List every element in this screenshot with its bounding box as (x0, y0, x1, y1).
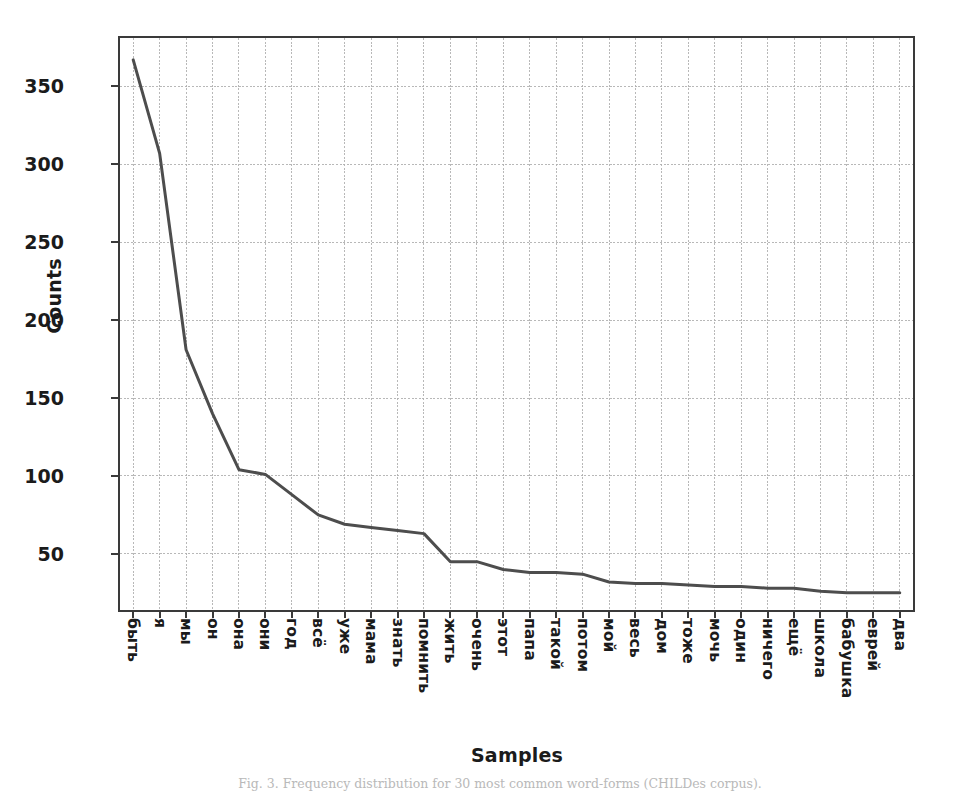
x-axis-tick-label: мы (177, 618, 195, 645)
x-axis-tick-label: быть (124, 618, 142, 662)
x-axis-tick-label: один (732, 618, 750, 663)
x-axis-tick-mark (397, 611, 399, 618)
x-axis-tick-mark (687, 611, 689, 618)
x-axis-tick-mark (661, 611, 663, 618)
x-axis-tick-mark (819, 611, 821, 618)
x-axis-tick-label: мочь (706, 618, 724, 662)
y-axis-tick-labels: 50100150200250300350 (0, 0, 118, 790)
x-axis-tick-mark (767, 611, 769, 618)
x-axis-tick-label: уже (336, 618, 354, 654)
x-axis-tick-mark (185, 611, 187, 618)
x-axis-tick-label: этот (494, 618, 512, 656)
x-axis-tick-label: еврей (864, 618, 882, 671)
y-axis-tick-mark (111, 475, 118, 477)
x-axis-tick-label: очень (468, 618, 486, 671)
x-axis-tick-label: ничего (759, 618, 777, 680)
y-axis-tick-mark (111, 319, 118, 321)
y-axis-tick-label: 100 (2, 465, 64, 487)
x-axis-tick-label: он (204, 618, 222, 640)
x-axis-tick-mark (344, 611, 346, 618)
x-axis-tick-mark (159, 611, 161, 618)
x-axis-tick-mark (238, 611, 240, 618)
chart-canvas (120, 38, 913, 610)
y-axis-tick-mark (111, 163, 118, 165)
x-axis-tick-mark (714, 611, 716, 618)
x-axis-tick-label: всё (309, 618, 327, 648)
x-axis-tick-mark (793, 611, 795, 618)
x-axis-tick-mark (582, 611, 584, 618)
x-axis-tick-mark (449, 611, 451, 618)
x-axis-tick-label: весь (626, 618, 644, 658)
y-axis-tick-label: 350 (2, 75, 64, 97)
y-axis-tick-label: 150 (2, 387, 64, 409)
x-axis-tick-label: они (256, 618, 274, 651)
y-axis-tick-label: 200 (2, 309, 64, 331)
x-axis-tick-label: жить (441, 618, 459, 663)
x-axis-tick-mark (370, 611, 372, 618)
y-axis-tick-mark (111, 553, 118, 555)
x-axis-tick-mark (529, 611, 531, 618)
x-axis-tick-label: потом (574, 618, 592, 672)
x-axis-tick-mark (555, 611, 557, 618)
y-axis-tick-mark (111, 397, 118, 399)
plot-area (118, 36, 915, 612)
x-axis-tick-label: ещё (785, 618, 803, 656)
x-axis-tick-label: помнить (415, 618, 433, 693)
x-axis-tick-label: школа (811, 618, 829, 678)
data-series-line (133, 60, 900, 593)
x-axis-tick-label: я (151, 618, 169, 628)
x-axis-tick-mark (291, 611, 293, 618)
x-axis-tick-mark (212, 611, 214, 618)
x-axis-tick-label: год (283, 618, 301, 650)
x-axis-tick-mark (423, 611, 425, 618)
x-axis-tick-label: мой (600, 618, 618, 652)
x-axis-tick-mark (476, 611, 478, 618)
y-axis-tick-label: 300 (2, 153, 64, 175)
x-axis-tick-label: тоже (679, 618, 697, 664)
x-axis-tick-mark (846, 611, 848, 618)
x-axis-tick-mark (740, 611, 742, 618)
x-axis-tick-label: папа (521, 618, 539, 661)
x-axis-tick-mark (132, 611, 134, 618)
y-axis-tick-mark (111, 85, 118, 87)
x-axis-tick-mark (317, 611, 319, 618)
x-axis-tick-label: два (891, 618, 909, 651)
y-axis-tick-label: 50 (2, 543, 64, 565)
x-axis-title: Samples (118, 744, 916, 766)
x-axis-tick-mark (608, 611, 610, 618)
x-axis-tick-label: дом (653, 618, 671, 654)
y-axis-tick-mark (111, 241, 118, 243)
y-axis-tick-label: 250 (2, 231, 64, 253)
x-axis-tick-mark (634, 611, 636, 618)
x-axis-tick-label: знать (389, 618, 407, 667)
x-axis-tick-mark (502, 611, 504, 618)
x-axis-tick-mark (899, 611, 901, 618)
x-axis-tick-label: такой (547, 618, 565, 670)
x-axis-tick-label: мама (362, 618, 380, 665)
x-axis-tick-mark (872, 611, 874, 618)
x-axis-tick-label: бабушка (838, 618, 856, 698)
x-axis-tick-mark (264, 611, 266, 618)
figure-caption: Fig. 3. Frequency distribution for 30 mo… (120, 776, 880, 791)
x-axis-tick-label: она (230, 618, 248, 650)
